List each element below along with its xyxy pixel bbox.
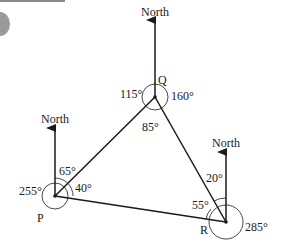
r-north-arc [214,198,226,201]
angle-r-north: 20° [206,171,223,185]
angle-q-interior: 85° [142,120,159,134]
angle-q-left: 115° [120,87,143,101]
angle-r-reflex: 285° [245,220,268,234]
side-pq [55,97,155,196]
point-label-r: R [200,223,208,237]
north-label-p: North [41,112,69,126]
left-edge-circle-decor [0,12,10,36]
vertex-dot-p [53,194,57,198]
point-label-q: Q [158,73,167,87]
point-label-p: P [37,211,44,225]
side-qr [155,97,226,222]
north-label-q: North [141,5,169,19]
angle-p-interior: 40° [75,181,92,195]
angle-arcs [42,84,243,239]
angle-p-reflex: 255° [19,184,42,198]
top-bar-decor [0,0,65,2]
angle-r-interior: 55° [192,198,209,212]
angle-q-right: 160° [171,89,194,103]
vertex-dot-r [224,220,228,224]
vertex-dot-q [153,95,157,99]
north-label-r: North [212,136,240,150]
angle-p-north: 65° [59,164,76,178]
bearing-diagram: North North North Q P R 115° 160° 85° 65… [0,0,287,252]
